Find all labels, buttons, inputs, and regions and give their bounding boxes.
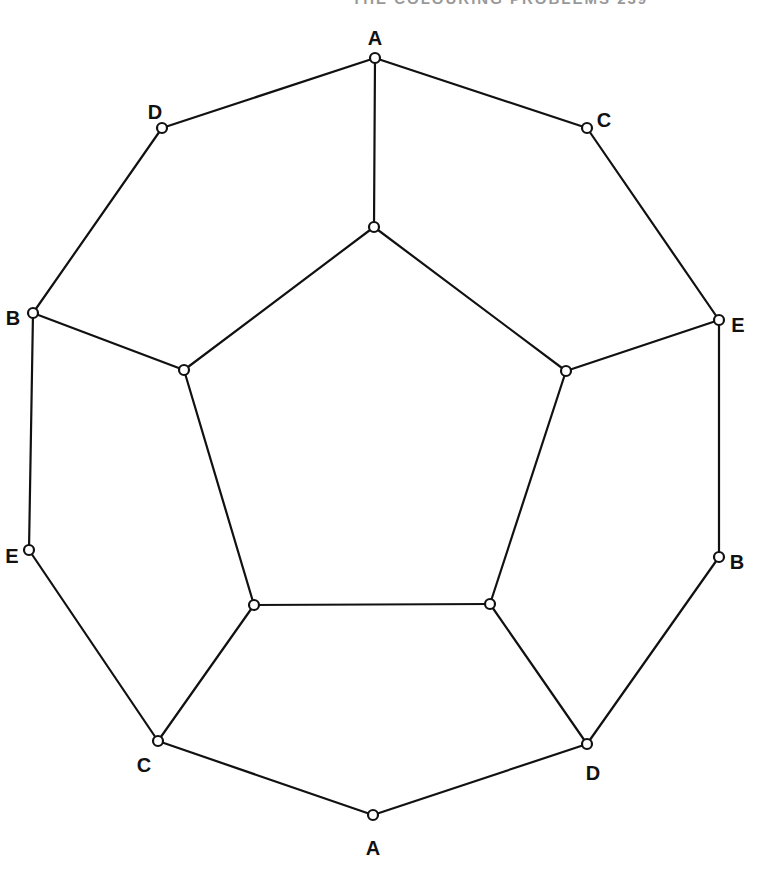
vertex-label: B xyxy=(6,307,20,329)
graph-vertex xyxy=(28,308,38,318)
vertex-label: A xyxy=(366,837,380,859)
vertex-label: E xyxy=(731,314,744,336)
graph-vertex xyxy=(24,545,34,555)
graph-vertex xyxy=(714,552,724,562)
graph-vertex xyxy=(179,365,189,375)
vertex-label: A xyxy=(368,27,382,49)
graph-vertex xyxy=(370,53,380,63)
graph-edge xyxy=(33,128,162,313)
graph-vertex xyxy=(368,810,378,820)
graph-vertex xyxy=(369,222,379,232)
graph-edge xyxy=(490,371,566,604)
graph-vertex xyxy=(714,315,724,325)
graph-vertex xyxy=(157,123,167,133)
graph-edge xyxy=(254,604,490,605)
graph-edge xyxy=(184,227,374,370)
dodecahedron-graph-diagram: ACEBDACEBD xyxy=(0,0,764,869)
graph-edge xyxy=(29,313,33,550)
graph-edge xyxy=(184,370,254,605)
vertex-label: D xyxy=(586,762,600,784)
graph-vertex xyxy=(582,123,592,133)
graph-vertex xyxy=(582,739,592,749)
graph-edge xyxy=(566,320,719,371)
vertex-label: D xyxy=(148,101,162,123)
graph-edge xyxy=(374,58,375,227)
vertex-label: B xyxy=(730,551,744,573)
graph-edge xyxy=(33,313,184,370)
graph-edges xyxy=(29,58,719,815)
vertex-label: E xyxy=(5,545,18,567)
graph-edge xyxy=(373,744,587,815)
graph-vertex xyxy=(561,366,571,376)
graph-edge xyxy=(162,58,375,128)
vertex-label: C xyxy=(137,754,151,776)
graph-edge xyxy=(375,58,587,128)
vertex-label: C xyxy=(597,109,611,131)
graph-edge xyxy=(587,128,719,320)
graph-edge xyxy=(158,605,254,741)
graph-vertex xyxy=(249,600,259,610)
graph-edge xyxy=(29,550,158,741)
graph-edge xyxy=(158,741,373,815)
graph-edge xyxy=(587,557,719,744)
graph-vertex xyxy=(485,599,495,609)
graph-edge xyxy=(490,604,587,744)
graph-vertex xyxy=(153,736,163,746)
graph-edge xyxy=(374,227,566,371)
